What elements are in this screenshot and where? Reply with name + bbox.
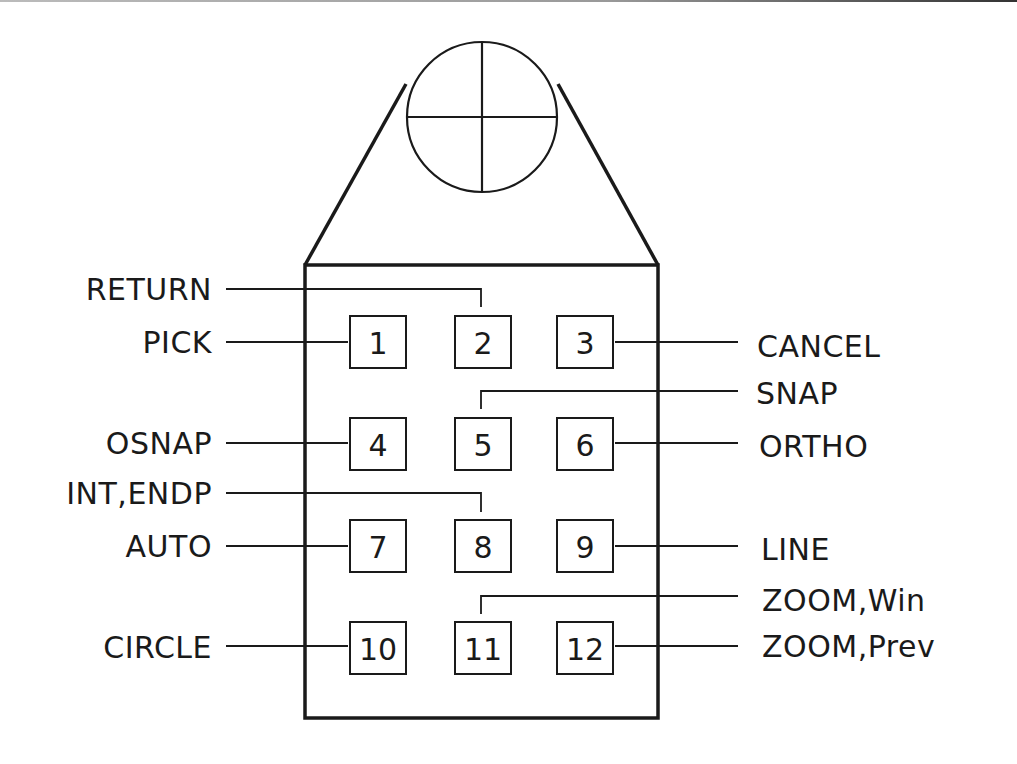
leader-int-endp — [226, 493, 481, 512]
puck-button-6[interactable]: 6 — [557, 418, 613, 470]
label-return: RETURN — [86, 272, 212, 307]
leader-return — [226, 289, 481, 307]
button-number: 11 — [464, 632, 502, 667]
puck-button-8[interactable]: 8 — [455, 520, 511, 572]
leader-zoom-win — [481, 596, 738, 614]
button-number: 8 — [473, 530, 492, 565]
puck-diagram: 1 2 3 4 5 6 7 8 — [0, 0, 1017, 764]
puck-button-11[interactable]: 11 — [455, 622, 511, 674]
label-pick: PICK — [142, 325, 212, 360]
button-number: 12 — [566, 632, 604, 667]
button-number: 9 — [575, 530, 594, 565]
button-number: 10 — [359, 632, 397, 667]
puck-button-5[interactable]: 5 — [455, 418, 511, 470]
left-tangent-line — [305, 84, 406, 265]
puck-button-1[interactable]: 1 — [350, 316, 406, 368]
button-number: 2 — [473, 326, 492, 361]
label-snap: SNAP — [756, 376, 838, 411]
button-number: 7 — [368, 530, 387, 565]
button-number: 4 — [368, 428, 387, 463]
right-labels: CANCEL SNAP ORTHO LINE ZOOM,Win ZOOM,Pre… — [756, 329, 935, 664]
leader-snap — [481, 391, 738, 409]
label-int-endp: INT,ENDP — [66, 476, 212, 511]
label-zoom-win: ZOOM,Win — [762, 583, 926, 618]
label-circle: CIRCLE — [103, 630, 212, 665]
puck-button-12[interactable]: 12 — [557, 622, 613, 674]
puck-button-4[interactable]: 4 — [350, 418, 406, 470]
label-auto: AUTO — [126, 529, 212, 564]
label-osnap: OSNAP — [106, 426, 212, 461]
button-number: 5 — [473, 428, 492, 463]
label-cancel: CANCEL — [757, 329, 881, 364]
label-line: LINE — [761, 532, 830, 567]
label-zoom-prev: ZOOM,Prev — [762, 629, 935, 664]
button-number: 6 — [575, 428, 594, 463]
puck-button-3[interactable]: 3 — [557, 316, 613, 368]
puck-button-9[interactable]: 9 — [557, 520, 613, 572]
left-labels: RETURN PICK OSNAP INT,ENDP AUTO CIRCLE — [66, 272, 213, 665]
button-number: 3 — [575, 326, 594, 361]
puck-button-7[interactable]: 7 — [350, 520, 406, 572]
puck-button-2[interactable]: 2 — [455, 316, 511, 368]
button-number: 1 — [368, 326, 387, 361]
label-ortho: ORTHO — [759, 429, 868, 464]
puck-button-10[interactable]: 10 — [350, 622, 406, 674]
right-tangent-line — [558, 84, 658, 265]
crosshair-lens — [407, 42, 557, 192]
